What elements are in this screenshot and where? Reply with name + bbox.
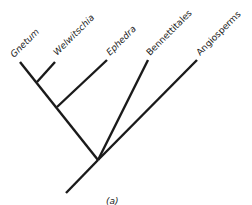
taxon-label-bennettitales: Bennettitales [144, 8, 194, 58]
taxon-label-welwitschia: Welwitschia [51, 12, 96, 57]
taxon-label-ephedra: Ephedra [104, 24, 138, 58]
branch-welwitschia [37, 62, 55, 82]
branch-gnetum [20, 62, 98, 160]
branch-angiosperms [98, 60, 197, 160]
taxon-label-angiosperms: Angiosperms [194, 9, 243, 58]
branch-ephedra [57, 60, 107, 107]
root-branch [66, 160, 98, 193]
branch-bennettitales [98, 60, 148, 160]
taxon-label-gnetum: Gnetum [8, 27, 41, 60]
cladogram: Gnetum Welwitschia Ephedra Bennettitales… [0, 0, 252, 205]
figure-caption: (a) [106, 196, 119, 205]
